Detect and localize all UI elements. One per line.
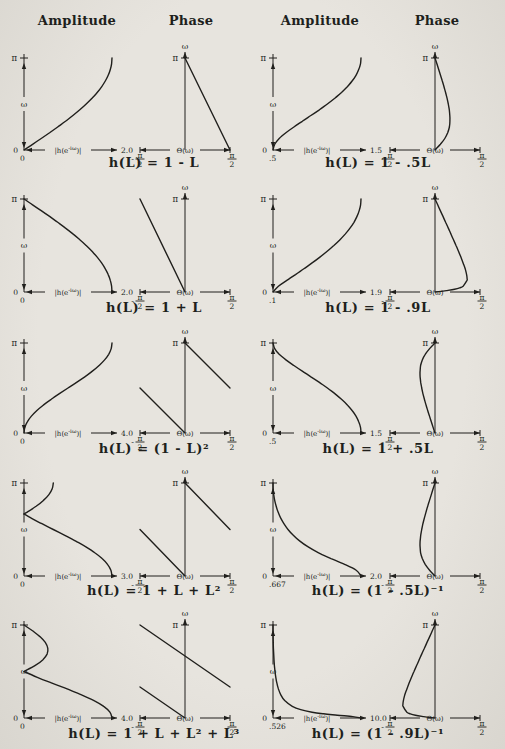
pi-tick-label: π — [172, 620, 178, 630]
caption-row3-left: h(L) = (1 - L)² — [32, 441, 276, 456]
caption-row5-right: h(L) = (1 - .9L)⁻¹ — [256, 726, 500, 741]
pi-tick-label: π — [260, 53, 266, 63]
axis-arrow-up — [183, 477, 187, 483]
amplitude-plot-row5-right: πω0|h(e-iω)|.52610.0 — [257, 611, 391, 738]
axis-arrow-left — [26, 431, 32, 435]
axis-arrow-up — [22, 348, 26, 354]
caption-row1-left: h(L) = 1 - L — [32, 155, 276, 170]
pi-tick-label: π — [422, 53, 428, 63]
pi-tick-label: π — [11, 53, 17, 63]
axis-arrow-up — [433, 337, 437, 343]
omega-axis-label: ω — [182, 327, 189, 336]
pi-tick-label: π — [11, 620, 17, 630]
amplitude-axis-label: |h(e-iω)| — [304, 287, 331, 297]
phase-plot-row3-left: ωπΘ(ω)π2-π2 — [122, 327, 248, 453]
axis-arrow-down — [271, 425, 275, 431]
omega-axis-label: ω — [432, 609, 439, 618]
axis-arrow-down — [271, 710, 275, 716]
amplitude-axis-label: |h(e-iω)| — [55, 428, 82, 438]
omega-axis-label: ω — [270, 384, 277, 393]
axis-arrow-down — [22, 142, 26, 148]
omega-axis-label: ω — [21, 525, 28, 534]
phase-plot-row5-left: ωπΘ(ω)π2-π2 — [122, 609, 248, 738]
response-curve — [420, 483, 435, 576]
column-header-phase-left: Phase — [136, 13, 246, 28]
axis-arrow-up — [183, 337, 187, 343]
response-curve — [24, 343, 112, 433]
pi-tick-label: π — [422, 194, 428, 204]
x-min-label: 0 — [20, 437, 25, 446]
axis-arrow-down — [271, 284, 275, 290]
axis-arrow-left — [26, 716, 32, 720]
caption-row2-right: h(L) = 1 - .9L — [256, 300, 500, 315]
axis-arrow-left — [275, 290, 281, 294]
x-min-label: 0 — [20, 580, 25, 589]
axis-arrow-right — [360, 148, 366, 152]
response-curve — [185, 483, 230, 530]
axis-arrow-left — [275, 148, 281, 152]
response-curve — [140, 388, 185, 433]
pi-tick-label: π — [11, 478, 17, 488]
response-curve — [273, 199, 361, 292]
pi-tick-label: π — [172, 478, 178, 488]
phase-plot-row2-right: ωπΘ(ω)π2-π2 — [372, 183, 498, 312]
omega-axis-label: ω — [182, 183, 189, 192]
axis-arrow-down — [22, 710, 26, 716]
axis-arrow-up — [22, 63, 26, 69]
axis-arrow-right — [360, 290, 366, 294]
book-page: Amplitude Phase Amplitude Phase πω0|h(e-… — [0, 0, 505, 749]
response-curve — [420, 343, 435, 433]
amplitude-axis-label: |h(e-iω)| — [55, 571, 82, 581]
phase-plot-row1-left: ωπΘ(ω)π2-π2 — [122, 42, 248, 170]
response-curve — [24, 199, 112, 292]
pi-tick-label: π — [260, 478, 266, 488]
axis-arrow-up — [271, 63, 275, 69]
response-curve — [435, 58, 450, 150]
zero-tick-label: 0 — [13, 714, 18, 723]
omega-axis-label: ω — [182, 467, 189, 476]
axis-arrow-up — [183, 619, 187, 625]
axis-arrow-right — [111, 148, 117, 152]
zero-tick-label: 0 — [262, 714, 267, 723]
amplitude-plot-row2-right: πω0|h(e-iω)|.11.9 — [257, 185, 391, 312]
response-curve — [24, 514, 112, 576]
pi-tick-label: π — [422, 620, 428, 630]
axis-arrow-up — [22, 488, 26, 494]
axis-arrow-up — [433, 477, 437, 483]
response-curve — [24, 58, 112, 150]
response-curve — [140, 687, 185, 718]
axis-arrow-up — [22, 630, 26, 636]
axis-arrow-up — [271, 204, 275, 210]
zero-tick-label: 0 — [262, 572, 267, 581]
x-min-label: 0 — [20, 296, 25, 305]
axis-arrow-left — [275, 716, 281, 720]
axis-arrow-left — [275, 431, 281, 435]
amplitude-plot-row3-right: πω0|h(e-iω)|.51.5 — [257, 329, 391, 453]
phase-plot-row4-left: ωπΘ(ω)π2-π2 — [122, 467, 248, 596]
response-curve — [435, 199, 467, 292]
x-min-label: 0 — [20, 154, 25, 163]
response-curve — [24, 625, 48, 672]
caption-row4-left: h(L) = 1 + L + L² — [32, 583, 276, 598]
amplitude-axis-label: |h(e-iω)| — [55, 713, 82, 723]
zero-tick-label: 0 — [13, 288, 18, 297]
axis-arrow-left — [26, 574, 32, 578]
caption-row2-left: h(L) = 1 + L — [32, 300, 276, 315]
omega-axis-label: ω — [270, 525, 277, 534]
response-curve — [185, 58, 230, 150]
response-curve — [273, 483, 361, 576]
zero-tick-label: 0 — [262, 146, 267, 155]
pi-tick-label: π — [260, 194, 266, 204]
column-header-phase-right: Phase — [382, 13, 492, 28]
amplitude-axis-label: |h(e-iω)| — [304, 571, 331, 581]
amplitude-axis-label: |h(e-iω)| — [55, 287, 82, 297]
caption-row1-right: h(L) = 1 - .5L — [256, 155, 500, 170]
amplitude-plot-row4-right: πω0|h(e-iω)|.6672.0 — [257, 469, 391, 596]
phase-plot-row4-right: ωπΘ(ω)π2-π2 — [372, 467, 498, 596]
response-curve — [24, 672, 112, 719]
caption-row4-right: h(L) = (1 - .5L)⁻¹ — [256, 583, 500, 598]
omega-axis-label: ω — [432, 183, 439, 192]
omega-axis-label: ω — [21, 241, 28, 250]
omega-axis-label: ω — [182, 609, 189, 618]
response-curve — [273, 58, 361, 150]
